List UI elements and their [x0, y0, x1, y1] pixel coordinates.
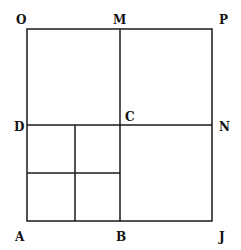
- label-O: O: [16, 13, 26, 27]
- label-P: P: [219, 13, 228, 27]
- label-J: J: [218, 230, 225, 244]
- label-C: C: [125, 110, 135, 124]
- label-M: M: [113, 13, 126, 27]
- label-N: N: [219, 120, 230, 134]
- label-B: B: [116, 230, 126, 244]
- diagram-canvas: O M P D C N A B J: [0, 0, 241, 250]
- label-A: A: [14, 230, 25, 244]
- label-D: D: [14, 120, 24, 134]
